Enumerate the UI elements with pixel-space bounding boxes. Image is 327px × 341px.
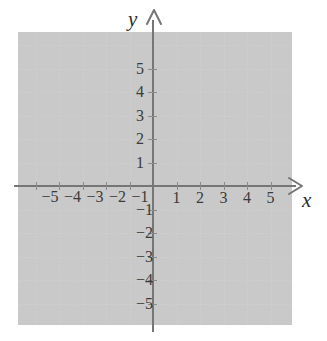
x-tick-label: 2 (190, 190, 210, 206)
y-tick-label: −4 (136, 272, 156, 288)
x-tick-label: −2 (108, 189, 128, 205)
y-axis-tick (148, 69, 157, 70)
x-axis-label: x (302, 190, 311, 211)
y-tick-label: 1 (126, 155, 144, 171)
grid-line-vertical (59, 32, 60, 325)
y-axis-tick (148, 116, 157, 117)
y-tick-label: −2 (136, 225, 156, 241)
x-tick-label: 3 (214, 190, 234, 206)
grid-line-vertical (177, 32, 178, 325)
coordinate-plane: y x 12345−5−4−3−2−154321−1−2−3−4−5 (0, 0, 327, 341)
grid-line-vertical (271, 32, 272, 325)
y-tick-label: −5 (136, 296, 156, 312)
y-tick-label: 5 (126, 61, 144, 77)
x-tick-label: 1 (167, 190, 187, 206)
y-tick-label: −3 (136, 249, 156, 265)
arrow-up-icon (142, 8, 166, 26)
grid-line-vertical (224, 32, 225, 325)
x-axis-tick (36, 182, 37, 190)
x-tick-label: 5 (261, 190, 281, 206)
grid-line-vertical (106, 32, 107, 325)
y-axis-tick (148, 139, 157, 140)
x-tick-label: −4 (63, 189, 83, 205)
x-axis-line (14, 185, 296, 187)
y-tick-label: −1 (136, 202, 156, 218)
y-tick-label: 3 (126, 108, 144, 124)
y-tick-label: 2 (126, 131, 144, 147)
grid-line-vertical (83, 32, 84, 325)
grid-line-vertical (200, 32, 201, 325)
y-tick-label: 4 (126, 84, 144, 100)
x-axis-tick (83, 182, 84, 190)
y-axis-tick (148, 163, 157, 164)
grid-line-horizontal (18, 45, 292, 46)
x-tick-label: −5 (40, 189, 60, 205)
y-axis-label: y (128, 9, 137, 30)
y-axis-tick (148, 92, 157, 93)
x-tick-label: 4 (237, 190, 257, 206)
grid-line-vertical (36, 32, 37, 325)
x-tick-label: −3 (85, 189, 105, 205)
grid-line-vertical (247, 32, 248, 325)
